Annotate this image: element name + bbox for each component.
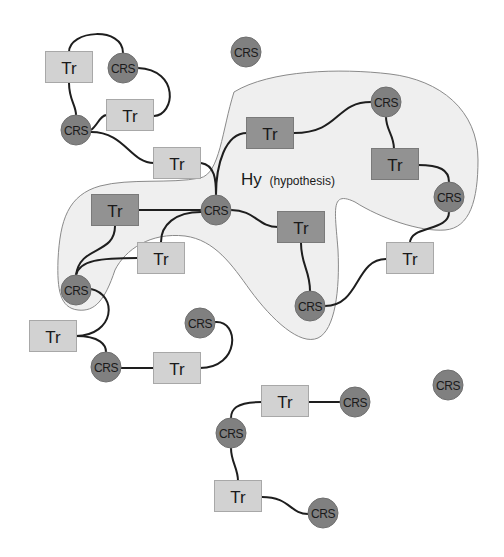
tr-node: Tr xyxy=(46,52,93,83)
crs-node: CRS xyxy=(201,195,231,225)
tr-node: Tr xyxy=(262,386,309,417)
crs-label: CRS xyxy=(234,46,258,60)
crs-label: CRS xyxy=(204,204,228,218)
crs-label: CRS xyxy=(374,96,398,110)
edge xyxy=(231,402,262,418)
crs-label: CRS xyxy=(64,284,88,298)
tr-node: Tr xyxy=(387,243,434,274)
edge xyxy=(91,132,154,163)
crs-label: CRS xyxy=(188,317,212,331)
crs-node: CRS xyxy=(91,352,121,382)
tr-label: Tr xyxy=(169,360,185,379)
tr-label: Tr xyxy=(387,156,403,175)
tr-label: Tr xyxy=(122,107,138,126)
crs-node: CRS xyxy=(340,387,370,417)
tr-label: Tr xyxy=(277,393,293,412)
edge xyxy=(69,83,76,115)
crs-label: CRS xyxy=(219,427,243,441)
crs-label: CRS xyxy=(343,396,367,410)
crs-label: CRS xyxy=(94,361,118,375)
tr-node: Tr xyxy=(247,118,294,149)
edge xyxy=(91,115,107,130)
tr-node: Tr xyxy=(372,149,419,180)
edge xyxy=(262,497,308,514)
crs-node: CRS xyxy=(108,53,138,83)
crs-node: CRS xyxy=(371,87,401,117)
tr-node: Tr xyxy=(92,195,139,226)
crs-node: CRS xyxy=(434,182,464,212)
tr-label: Tr xyxy=(402,250,418,269)
edge xyxy=(76,336,106,352)
tr-node: Tr xyxy=(215,481,262,512)
edge xyxy=(231,448,238,481)
crs-label: CRS xyxy=(64,124,88,138)
tr-label: Tr xyxy=(262,125,278,144)
tr-node: Tr xyxy=(30,321,77,352)
tr-label: Tr xyxy=(169,155,185,174)
tr-label: Tr xyxy=(230,488,246,507)
tr-label: Tr xyxy=(45,328,61,347)
crs-node: CRS xyxy=(231,37,261,67)
tr-node: Tr xyxy=(138,243,185,274)
crs-node: CRS xyxy=(185,308,215,338)
tr-label: Tr xyxy=(153,250,169,269)
crs-node: CRS xyxy=(216,418,246,448)
tr-node: Tr xyxy=(154,148,201,179)
crs-node: CRS xyxy=(61,115,91,145)
tr-label: Tr xyxy=(293,219,309,238)
tr-node: Tr xyxy=(107,100,154,131)
crs-label: CRS xyxy=(437,191,461,205)
crs-label: CRS xyxy=(436,379,460,393)
crs-label: CRS xyxy=(298,300,322,314)
hypothesis-network-diagram: Hy (hypothesis) xyxy=(0,0,504,557)
tr-node: Tr xyxy=(278,212,325,243)
crs-node: CRS xyxy=(433,370,463,400)
tr-label: Tr xyxy=(107,202,123,221)
crs-node: CRS xyxy=(295,291,325,321)
tr-label: Tr xyxy=(61,59,77,78)
crs-label: CRS xyxy=(311,507,335,521)
tr-node: Tr xyxy=(154,353,201,384)
crs-node: CRS xyxy=(308,498,338,528)
crs-label: CRS xyxy=(111,62,135,76)
edge xyxy=(69,34,123,53)
crs-node: CRS xyxy=(61,275,91,305)
